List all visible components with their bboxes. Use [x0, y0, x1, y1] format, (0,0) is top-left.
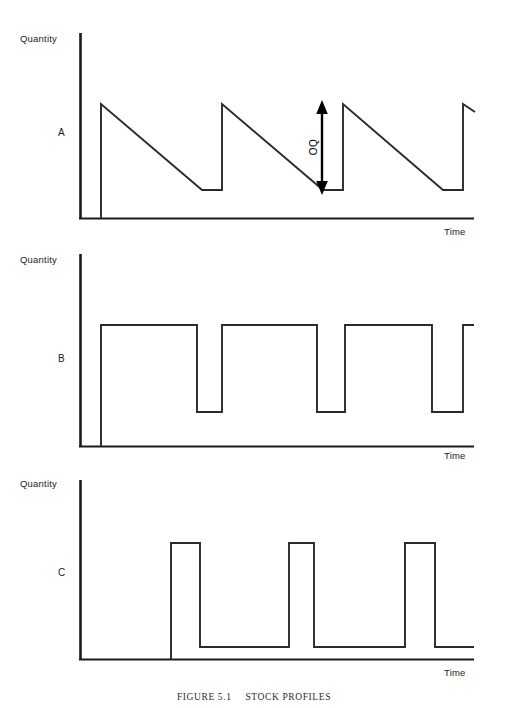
chart-c-svg: Quantity C Time — [0, 473, 508, 688]
series-label-b: B — [58, 353, 65, 364]
y-axis-label-c: Quantity — [20, 478, 57, 489]
chart-panel-a: Quantity A Time OQ — [0, 0, 508, 245]
x-axis-label-a: Time — [444, 226, 466, 237]
figure-page: Quantity A Time OQ Quantity B — [0, 0, 508, 708]
chart-a-svg: Quantity A Time OQ — [0, 0, 508, 245]
x-axis-label-c: Time — [444, 667, 466, 678]
y-axis-label-a: Quantity — [20, 33, 57, 44]
x-axis-label-b: Time — [444, 450, 466, 461]
chart-b-svg: Quantity B Time — [0, 245, 508, 473]
figure-caption-number: FIGURE 5.1 — [177, 692, 232, 702]
chart-panel-b: Quantity B Time — [0, 245, 508, 473]
oq-arrow-head-up-icon — [316, 100, 328, 114]
data-line-c — [171, 543, 474, 659]
data-line-b — [101, 325, 474, 446]
oq-arrow-head-down-icon — [316, 181, 328, 195]
figure-caption: FIGURE 5.1STOCK PROFILES — [0, 692, 508, 702]
series-label-a: A — [58, 127, 65, 138]
series-label-c: C — [58, 567, 65, 578]
data-line-a — [101, 104, 475, 218]
figure-caption-title: STOCK PROFILES — [245, 692, 331, 702]
y-axis-label-b: Quantity — [20, 254, 57, 265]
chart-panel-c: Quantity C Time — [0, 473, 508, 688]
oq-label: OQ — [308, 139, 319, 156]
